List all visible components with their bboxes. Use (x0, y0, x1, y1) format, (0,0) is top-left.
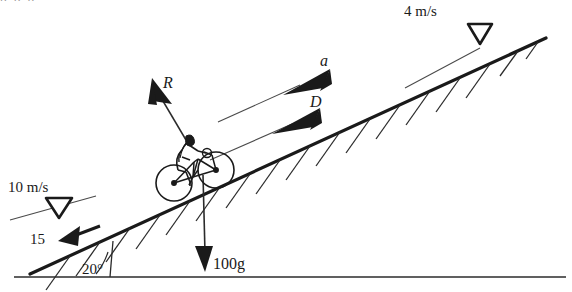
velocity-top-guide-line (405, 48, 480, 88)
weight-arrow-icon (195, 175, 213, 272)
speed-top-triangle-icon (468, 24, 492, 44)
weight-label: 100g (213, 256, 245, 272)
diagram-canvas (0, 0, 572, 292)
angle-vertical-line (110, 241, 113, 277)
physics-diagram: p p p (0, 0, 572, 292)
incline-hatching (46, 42, 538, 290)
resistance-label: 15 (30, 232, 45, 247)
driving-force-label: D (310, 94, 322, 110)
normal-reaction-label: R (163, 75, 173, 91)
speed-top-label: 4 m/s (404, 4, 437, 19)
resistance-arrow-icon (58, 226, 100, 246)
speed-left-triangle-icon (46, 198, 72, 218)
bicycle-seat (182, 157, 190, 160)
incline-angle-label: 20° (82, 262, 103, 277)
cyclist-illustration (156, 135, 234, 201)
acceleration-label: a (320, 53, 328, 69)
incline-surface (30, 38, 546, 274)
speed-left-label: 10 m/s (8, 180, 48, 195)
